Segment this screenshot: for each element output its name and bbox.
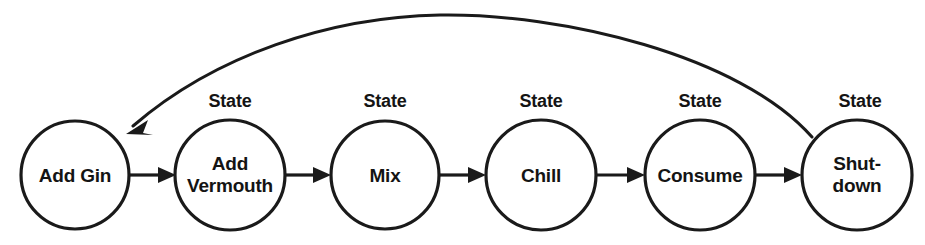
state-caption-mix: State bbox=[363, 91, 406, 111]
state-diagram: Add Gin State Add Vermouth State Mix Sta… bbox=[0, 0, 925, 245]
state-node-consume[interactable]: State Consume bbox=[645, 91, 755, 230]
arrow-head-tip bbox=[468, 167, 486, 183]
transition-add-gin-to-add-vermouth[interactable] bbox=[130, 167, 176, 183]
arrow-head bbox=[784, 167, 802, 183]
state-caption-add-vermouth: State bbox=[208, 91, 251, 111]
state-node-label-line-1: Add bbox=[212, 153, 248, 174]
state-node-label-line-1: Shut- bbox=[833, 153, 881, 174]
state-node-label: Add Gin bbox=[39, 165, 111, 186]
state-caption-chill: State bbox=[519, 91, 562, 111]
state-node-mix[interactable]: State Mix bbox=[331, 91, 439, 229]
transition-mix-to-chill[interactable] bbox=[440, 167, 486, 183]
state-node-label-line-2: down bbox=[833, 175, 882, 196]
state-node-add-gin[interactable]: Add Gin bbox=[21, 121, 129, 229]
state-diagram-canvas: Add Gin State Add Vermouth State Mix Sta… bbox=[0, 0, 925, 245]
state-caption-shutdown: State bbox=[838, 91, 881, 111]
arrow-head bbox=[158, 167, 176, 183]
transition-chill-to-consume[interactable] bbox=[597, 167, 645, 183]
state-caption-consume: State bbox=[678, 91, 721, 111]
transition-add-vermouth-to-mix[interactable] bbox=[286, 167, 331, 183]
arrow-head bbox=[627, 167, 645, 183]
state-node-add-vermouth[interactable]: State Add Vermouth bbox=[175, 91, 285, 230]
state-node-label: Chill bbox=[521, 165, 561, 186]
state-node-chill[interactable]: State Chill bbox=[486, 91, 596, 230]
transition-consume-to-shutdown[interactable] bbox=[756, 167, 802, 183]
state-node-label-line-2: Vermouth bbox=[187, 175, 273, 196]
arrow-head bbox=[313, 167, 331, 183]
state-node-label: Mix bbox=[369, 165, 401, 186]
state-node-label: Consume bbox=[657, 165, 742, 186]
state-node-shutdown[interactable]: State Shut- down bbox=[802, 91, 912, 230]
